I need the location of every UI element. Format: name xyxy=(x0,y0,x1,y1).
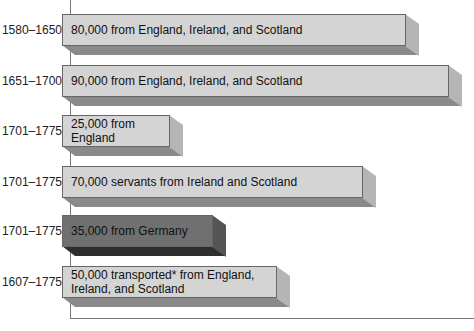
bar-label: 80,000 from England, Ireland, and Scotla… xyxy=(62,14,406,46)
bar-bottom-face xyxy=(62,45,419,55)
bar-bottom-face xyxy=(62,146,183,156)
bar-1701-1775-servants: 70,000 servants from Ireland and Scotlan… xyxy=(62,166,376,208)
bar-label: 25,000 from England xyxy=(62,115,170,147)
bar-label: 35,000 from Germany xyxy=(62,215,213,247)
bar-label: 90,000 from England, Ireland, and Scotla… xyxy=(62,65,449,97)
bar-1607-1775-transported: 50,000 transported* from England, Irelan… xyxy=(62,266,290,308)
immigration-bar-chart: 1580–1650 80,000 from England, Ireland, … xyxy=(0,0,474,331)
category-label: 1580–1650 xyxy=(0,23,62,37)
bar-1701-1775-germany: 35,000 from Germany xyxy=(62,215,226,257)
category-label: 1701–1775 xyxy=(0,175,62,189)
bar-label: 70,000 servants from Ireland and Scotlan… xyxy=(62,166,363,198)
category-label: 1701–1775 xyxy=(0,124,62,138)
bar-label: 50,000 transported* from England, Irelan… xyxy=(62,266,277,298)
bar-1701-1775-england: 25,000 from England xyxy=(62,115,183,157)
category-label: 1701–1775 xyxy=(0,224,62,238)
bar-bottom-face xyxy=(62,96,462,106)
bar-1580-1650: 80,000 from England, Ireland, and Scotla… xyxy=(62,14,419,56)
category-label: 1607–1775 xyxy=(0,275,62,289)
bar-bottom-face xyxy=(62,197,376,207)
bar-1651-1700: 90,000 from England, Ireland, and Scotla… xyxy=(62,65,462,107)
bar-bottom-face xyxy=(62,297,290,307)
bar-bottom-face xyxy=(62,246,226,256)
x-axis-line xyxy=(70,318,474,319)
category-label: 1651–1700 xyxy=(0,74,62,88)
